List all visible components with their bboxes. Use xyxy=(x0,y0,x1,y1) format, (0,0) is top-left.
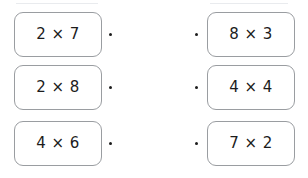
expression-text: 2 × 8 xyxy=(36,80,80,95)
expression-text: 4 × 4 xyxy=(229,80,273,95)
expression-text: 8 × 3 xyxy=(229,27,273,42)
matching-worksheet: 2 × 7 8 × 3 2 × 8 4 × 4 4 × 6 7 × 2 xyxy=(0,0,308,178)
right-option-card-3[interactable]: 7 × 2 xyxy=(207,121,295,166)
right-option-card-1[interactable]: 8 × 3 xyxy=(207,12,295,57)
connector-dot-left-1[interactable] xyxy=(109,33,112,36)
match-row-1: 2 × 7 8 × 3 xyxy=(0,12,308,58)
expression-text: 2 × 7 xyxy=(36,27,80,42)
connector-dot-right-1[interactable] xyxy=(195,33,198,36)
left-option-card-3[interactable]: 4 × 6 xyxy=(14,121,102,166)
top-rule-right xyxy=(210,3,288,4)
right-option-card-2[interactable]: 4 × 4 xyxy=(207,65,295,110)
left-option-card-2[interactable]: 2 × 8 xyxy=(14,65,102,110)
connector-dot-left-3[interactable] xyxy=(109,142,112,145)
expression-text: 4 × 6 xyxy=(36,136,80,151)
match-row-3: 4 × 6 7 × 2 xyxy=(0,121,308,167)
expression-text: 7 × 2 xyxy=(229,136,273,151)
connector-dot-right-2[interactable] xyxy=(195,86,198,89)
connector-dot-right-3[interactable] xyxy=(195,142,198,145)
top-rule-left xyxy=(16,3,98,4)
left-option-card-1[interactable]: 2 × 7 xyxy=(14,12,102,57)
match-row-2: 2 × 8 4 × 4 xyxy=(0,65,308,111)
connector-dot-left-2[interactable] xyxy=(109,86,112,89)
